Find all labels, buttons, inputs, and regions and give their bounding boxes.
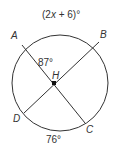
angle-AHB-label: 87° [38,57,53,68]
point-D-label: D [13,113,20,124]
chord-BD [24,42,99,113]
point-B-label: B [100,29,107,40]
point-A-label: A [10,30,18,41]
point-H-marker [52,81,56,85]
point-H-label: H [52,70,60,81]
arc-DC-label: 76° [46,134,61,145]
circle-diagram: (2x + 6)° A B 87° H D C 76° [0,0,117,150]
arc-AB-label: (2x + 6)° [42,9,80,20]
circle [12,35,108,131]
point-C-label: C [86,124,94,135]
